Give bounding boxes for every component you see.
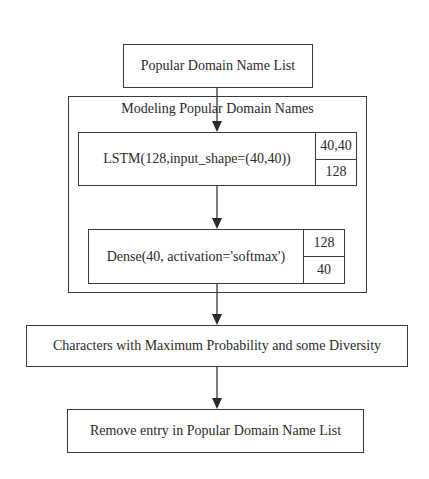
dense-output-shape: 40 [304,256,344,283]
dense-shape-panel: 128 40 [303,230,344,283]
lstm-layer-label: LSTM(128,input_shape=(40,40)) [79,133,315,185]
lstm-shape-panel: 40,40 128 [315,133,356,185]
lstm-output-shape: 128 [316,159,356,186]
remove-entry-node: Remove entry in Popular Domain Name List [67,409,364,453]
node-label: Characters with Maximum Probability and … [53,338,381,354]
node-label: Popular Domain Name List [141,58,295,74]
node-label: Remove entry in Popular Domain Name List [90,423,341,439]
lstm-input-shape: 40,40 [316,133,356,159]
dense-layer-label: Dense(40, activation='softmax') [89,230,303,283]
popular-domain-name-list-node: Popular Domain Name List [123,44,313,88]
modeling-group-title: Modeling Popular Domain Names [69,101,366,117]
lstm-layer-node: LSTM(128,input_shape=(40,40)) 40,40 128 [78,132,357,186]
dense-layer-node: Dense(40, activation='softmax') 128 40 [88,229,345,284]
dense-input-shape: 128 [304,230,344,256]
max-probability-sampling-node: Characters with Maximum Probability and … [26,325,408,367]
